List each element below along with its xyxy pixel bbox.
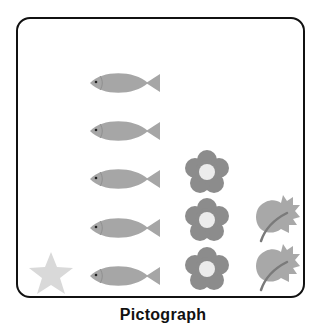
fish-icon — [88, 117, 162, 145]
flower-icon — [184, 149, 230, 195]
star-icon — [27, 250, 75, 296]
chart-title: Pictograph — [0, 306, 326, 324]
flower-icon — [184, 246, 230, 292]
leaf-icon — [253, 242, 301, 292]
fish-icon — [88, 214, 162, 242]
fish-icon — [88, 165, 162, 193]
leaf-icon — [253, 193, 301, 243]
flower-icon — [184, 197, 230, 243]
fish-icon — [88, 69, 162, 97]
fish-icon — [88, 262, 162, 290]
